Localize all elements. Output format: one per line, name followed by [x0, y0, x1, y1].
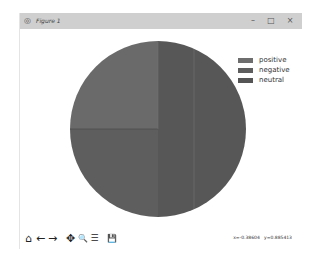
legend: positive negative neutral: [238, 56, 290, 86]
legend-item-positive: positive: [238, 56, 290, 65]
figure-window: ◎ Figure 1 – □ × positive negative: [19, 13, 302, 249]
pie-slice-negative: [70, 129, 158, 217]
back-button[interactable]: ←: [35, 232, 46, 245]
cursor-coordinates: x=-0.38604 y=0.885413: [233, 235, 292, 240]
legend-patch: [238, 68, 253, 73]
matplotlib-icon: ◎: [24, 16, 33, 25]
plot-canvas[interactable]: positive negative neutral: [20, 29, 302, 229]
configure-subplots-button[interactable]: ☰: [89, 232, 100, 245]
forward-button[interactable]: →: [47, 232, 58, 245]
close-button[interactable]: ×: [283, 15, 297, 27]
zoom-button[interactable]: 🔍: [77, 232, 88, 245]
navigation-toolbar: ⌂ ← → ✥ 🔍 ☰ 💾 x=-0.38604 y=0.885413: [20, 231, 302, 248]
minimize-button[interactable]: –: [246, 15, 260, 27]
maximize-button[interactable]: □: [264, 15, 278, 27]
legend-patch: [238, 78, 253, 83]
window-title: Figure 1: [36, 16, 61, 26]
pie-slice-neutral: [158, 41, 246, 217]
legend-item-negative: negative: [238, 66, 290, 75]
pan-button[interactable]: ✥: [65, 232, 76, 245]
home-button[interactable]: ⌂: [23, 232, 34, 245]
title-bar[interactable]: ◎ Figure 1 – □ ×: [20, 13, 302, 29]
pie-slice-positive: [70, 41, 158, 129]
save-button[interactable]: 💾: [106, 232, 117, 245]
legend-patch: [238, 58, 253, 63]
legend-item-neutral: neutral: [238, 76, 290, 85]
